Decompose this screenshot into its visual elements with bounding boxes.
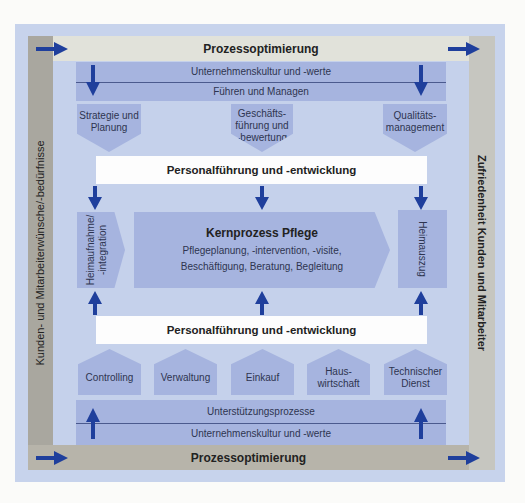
culture-values-row: Unternehmenskultur und -werte <box>76 423 446 446</box>
chevron-line: Strategie und <box>77 110 141 122</box>
culture-values-row: Unternehmenskultur und -werte <box>76 62 446 82</box>
core-process-box: Kernprozess Pflege Pflegeplanung, -inter… <box>134 212 390 288</box>
customer-needs-label: Kunden- und Mitarbeiterwünsche/-bedürfni… <box>34 140 46 365</box>
support-band: Unterstützungsprozesse Unternehmenskultu… <box>76 400 446 445</box>
arrow-up-icon <box>414 408 428 439</box>
house-line: Controlling <box>86 372 134 384</box>
core-process-line: Pflegeplanung, -intervention, -visite, <box>183 243 342 259</box>
divider-line <box>76 82 446 83</box>
chevron-line: management <box>383 122 447 134</box>
arrow-down-icon <box>255 186 269 210</box>
departure-label: Heimauszug <box>417 221 428 277</box>
arrow-right-icon <box>448 451 480 465</box>
management-band: Unternehmenskultur und -werte Führen und… <box>76 62 446 101</box>
admission-line: -integration <box>97 215 109 286</box>
personnel-development-bottom: Personalführung und -entwicklung <box>96 316 427 344</box>
personnel-development-bottom-label: Personalführung und -entwicklung <box>167 324 357 336</box>
personnel-development-top: Personalführung und -entwicklung <box>96 156 427 184</box>
chevron-line: Geschäfts- <box>231 108 293 120</box>
personnel-development-top-label: Personalführung und -entwicklung <box>167 164 357 176</box>
process-optimization-bottom-label: Prozessoptimierung <box>191 451 306 465</box>
house-line: Dienst <box>389 378 442 390</box>
admission-label: Heimaufnahme/ -integration <box>85 215 109 286</box>
arrow-down-icon <box>414 65 428 96</box>
core-process-line: Beschäftigung, Beratung, Begleitung <box>181 259 343 275</box>
chevron-line: Planung <box>77 122 141 134</box>
satisfaction-label: Zufriedenheit Kunden und Mitarbeiter <box>476 155 488 351</box>
admission-line: Heimaufnahme/ <box>85 215 97 286</box>
divider-line <box>76 423 446 424</box>
arrow-down-icon <box>88 186 102 210</box>
arrow-up-icon <box>88 291 102 315</box>
arrow-right-icon <box>36 42 68 56</box>
arrow-up-icon <box>255 291 269 315</box>
arrow-down-icon <box>86 65 100 96</box>
core-process-title: Kernprozess Pflege <box>206 226 318 240</box>
arrow-up-icon <box>414 291 428 315</box>
arrow-up-icon <box>86 408 100 439</box>
house-line: Einkauf <box>246 372 279 384</box>
support-processes-row: Unterstützungsprozesse <box>76 400 446 423</box>
arrow-right-icon <box>448 42 480 56</box>
process-optimization-top-label: Prozessoptimierung <box>203 42 318 56</box>
process-optimization-top: Prozessoptimierung <box>53 36 469 61</box>
departure-box: Heimauszug <box>398 210 447 288</box>
process-optimization-bottom: Prozessoptimierung <box>28 445 469 470</box>
house-line: wirtschaft <box>317 378 359 390</box>
leading-managing-row: Führen und Managen <box>76 82 446 102</box>
house-line: Verwaltung <box>161 372 210 384</box>
house-line: Haus- <box>317 366 359 378</box>
chevron-line: Qualitäts- <box>383 110 447 122</box>
house-line: Technischer <box>389 366 442 378</box>
arrow-down-icon <box>414 186 428 210</box>
chevron-line: führung und <box>231 120 293 132</box>
arrow-right-icon <box>36 451 68 465</box>
